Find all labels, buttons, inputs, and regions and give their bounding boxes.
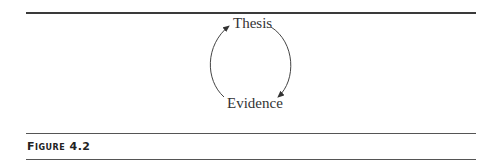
caption-top-rule bbox=[26, 133, 476, 134]
node-evidence: Evidence bbox=[227, 95, 283, 112]
caption-bottom-rule bbox=[26, 159, 476, 160]
node-thesis: Thesis bbox=[233, 15, 272, 32]
figure-caption: Figure 4.2 bbox=[27, 140, 91, 153]
arrow-thesis-to-evidence bbox=[271, 27, 291, 97]
arrow-evidence-to-thesis bbox=[210, 26, 229, 97]
